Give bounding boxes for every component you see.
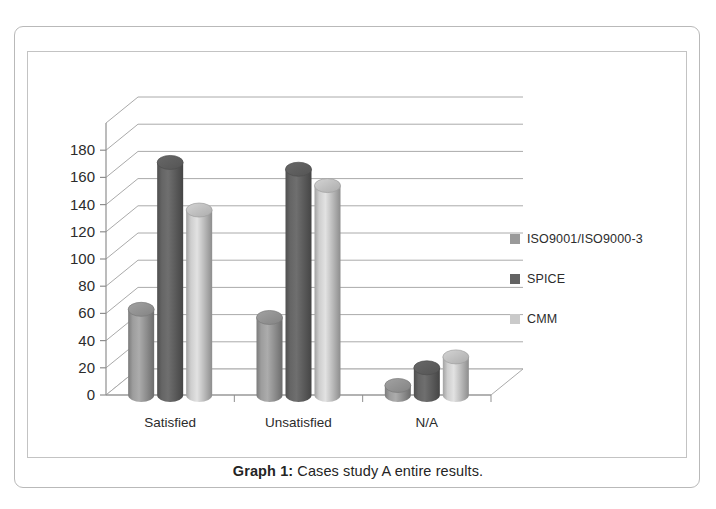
legend-swatch-spice-icon (510, 274, 520, 284)
y-axis-tick-label: 160 (70, 168, 95, 185)
bar-satisfied-spice (157, 155, 183, 402)
figure-caption: Graph 1: Cases study A entire results. (15, 463, 701, 479)
bar-n-a-cmm (443, 350, 469, 402)
chart-container: 020406080100120140160180SatisfiedUnsatis… (27, 51, 687, 458)
bar-unsatisfied-iso9001-iso9000-3 (257, 310, 283, 402)
y-axis-tick-label: 0 (87, 386, 95, 403)
legend-label-0: ISO9001/ISO9000-3 (527, 232, 643, 246)
legend-label-1: SPICE (527, 272, 565, 286)
y-axis-tick-label: 20 (78, 359, 95, 376)
y-axis-tick-label: 80 (78, 277, 95, 294)
bar-n-a-spice (414, 361, 440, 402)
bar-satisfied-iso9001-iso9000-3 (128, 302, 154, 402)
legend-swatch-cmm-icon (510, 314, 520, 324)
bar-unsatisfied-cmm (315, 179, 341, 402)
legend-item-1[interactable]: SPICE (510, 264, 690, 294)
legend-item-2[interactable]: CMM (510, 304, 690, 334)
y-axis-tick-label: 40 (78, 332, 95, 349)
y-axis-tick-label: 60 (78, 304, 95, 321)
legend-label-2: CMM (527, 312, 557, 326)
x-axis-category-label: Unsatisfied (265, 415, 332, 430)
y-axis-tick-label: 180 (70, 141, 95, 158)
chart-legend: ISO9001/ISO9000-3 SPICE CMM (510, 224, 690, 344)
legend-swatch-iso-icon (510, 234, 520, 244)
y-axis-tick-label: 140 (70, 196, 95, 213)
y-axis-tick-label: 120 (70, 223, 95, 240)
y-axis-tick-label: 100 (70, 250, 95, 267)
x-axis-category-label: N/A (416, 415, 439, 430)
x-axis-category-label: Satisfied (144, 415, 196, 430)
caption-label: Graph 1: (233, 463, 293, 479)
bar-unsatisfied-spice (286, 162, 312, 402)
caption-text: Cases study A entire results. (293, 463, 483, 479)
legend-item-0[interactable]: ISO9001/ISO9000-3 (510, 224, 690, 254)
bar-n-a-iso9001-iso9000-3 (385, 378, 411, 402)
bar-satisfied-cmm (186, 203, 212, 402)
figure-frame: 020406080100120140160180SatisfiedUnsatis… (14, 26, 700, 488)
